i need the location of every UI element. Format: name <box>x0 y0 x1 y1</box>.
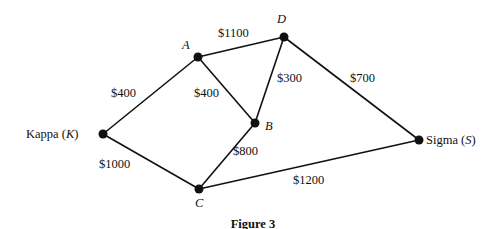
node-label-kappa: Kappa (K) <box>26 128 78 141</box>
node-b <box>251 119 260 128</box>
edge-d-s <box>284 37 419 140</box>
node-label-a: A <box>182 39 190 52</box>
edge-cost-d-b: $300 <box>277 72 302 85</box>
network-diagram <box>0 0 500 229</box>
node-label-d: D <box>277 13 286 26</box>
kappa-abbr: K <box>66 127 74 141</box>
edge-cost-a-d: $1100 <box>218 27 249 40</box>
edge-cost-k-a: $400 <box>111 87 136 100</box>
edge-cost-c-s: $1200 <box>293 174 324 187</box>
node-kappa <box>99 130 108 139</box>
sigma-name: Sigma ( <box>426 133 465 147</box>
node-a <box>194 53 203 62</box>
sigma-close: ) <box>471 133 475 147</box>
node-label-c: C <box>195 197 203 210</box>
node-label-sigma: Sigma (S) <box>426 134 476 147</box>
edge-a-d <box>198 37 284 57</box>
figure-caption: Figure 3 <box>0 217 500 229</box>
edge-cost-d-s: $700 <box>350 72 375 85</box>
node-label-b: B <box>265 120 273 133</box>
node-c <box>195 185 204 194</box>
kappa-name: Kappa ( <box>26 127 66 141</box>
node-d <box>280 33 289 42</box>
node-sigma <box>415 136 424 145</box>
kappa-close: ) <box>74 127 78 141</box>
edge-cost-k-c: $1000 <box>99 158 130 171</box>
edge-cost-a-b: $400 <box>194 87 219 100</box>
edge-cost-b-c: $800 <box>233 145 258 158</box>
